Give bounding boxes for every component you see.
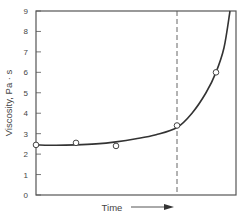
viscosity-time-chart: 0123456789 Viscosity, Pa · s Time	[0, 0, 242, 216]
y-tick-label: 9	[24, 7, 29, 16]
data-markers	[33, 70, 219, 149]
data-point-marker	[213, 70, 219, 76]
y-tick-label: 0	[24, 191, 29, 200]
y-tick-label: 1	[24, 171, 29, 180]
y-tick-label: 4	[24, 109, 29, 118]
data-point-marker	[33, 142, 39, 148]
x-axis-arrow-icon	[131, 204, 174, 210]
y-axis-ticks: 0123456789	[24, 7, 41, 200]
y-tick-label: 8	[24, 27, 29, 36]
viscosity-curve	[36, 11, 230, 145]
y-tick-label: 7	[24, 48, 29, 57]
y-tick-label: 6	[24, 68, 29, 77]
plot-frame	[36, 11, 236, 195]
y-axis-label: Viscosity, Pa · s	[3, 69, 14, 136]
x-axis-label: Time	[102, 202, 123, 213]
y-tick-label: 2	[24, 150, 29, 159]
data-point-marker	[174, 123, 180, 129]
data-point-marker	[73, 140, 79, 146]
y-tick-label: 3	[24, 130, 29, 139]
y-tick-label: 5	[24, 89, 29, 98]
data-point-marker	[113, 143, 119, 149]
